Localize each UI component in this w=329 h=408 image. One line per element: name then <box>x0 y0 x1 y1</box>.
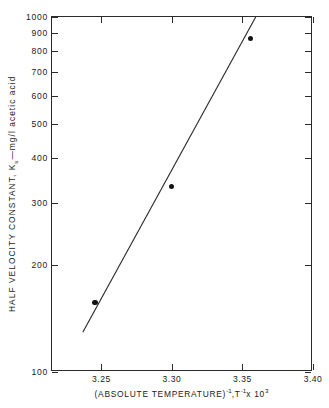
y-axis-title-post: —mg/l acetic acid <box>7 75 17 159</box>
y-axis-tick <box>305 372 311 373</box>
y-axis-tick-label: 800 <box>32 46 48 56</box>
x-axis-tick-label: 3.25 <box>92 374 111 384</box>
x-axis-title-exp3: 3 <box>265 387 268 394</box>
y-axis-tick-label: 500 <box>32 119 48 129</box>
fit-line <box>83 17 256 332</box>
y-axis-title-pre: HALF VELOCITY CONSTANT, K <box>7 163 17 311</box>
y-axis-title-text: HALF VELOCITY CONSTANT, Ks—mg/l acetic a… <box>7 75 19 311</box>
y-axis-tick-label: 1000 <box>26 12 48 22</box>
y-axis-tick-label: 300 <box>32 198 48 208</box>
x-axis-title-main: (ABSOLUTE TEMPERATURE) <box>95 389 227 399</box>
data-line-layer <box>52 17 311 370</box>
x-axis-tick <box>313 17 314 23</box>
data-point <box>248 36 253 41</box>
x-axis-tick <box>313 364 314 370</box>
chart-figure: HALF VELOCITY CONSTANT, Ks—mg/l acetic a… <box>0 0 329 408</box>
y-axis-tick-label: 900 <box>32 28 48 38</box>
y-axis-tick <box>52 372 58 373</box>
x-axis-tick-label: 3.30 <box>163 374 182 384</box>
x-axis-tick-label: 3.40 <box>304 374 323 384</box>
y-axis-tick-label: 200 <box>32 260 48 270</box>
y-axis-tick-label: 600 <box>32 91 48 101</box>
y-axis-tick-label: 700 <box>32 67 48 77</box>
x-axis-title-times: x 10 <box>246 389 265 399</box>
y-axis-tick-label: 400 <box>32 153 48 163</box>
plot-area: 10020030040050060070080090010003.253.303… <box>51 16 312 371</box>
x-axis-title-mid: ,T <box>232 389 241 399</box>
y-axis-tick-label: 100 <box>32 367 48 377</box>
data-point <box>169 184 174 189</box>
x-axis-tick-label: 3.35 <box>233 374 252 384</box>
x-axis-title: (ABSOLUTE TEMPERATURE)-1,T-1x 103 <box>51 387 312 399</box>
data-point <box>92 300 97 305</box>
y-axis-title: HALF VELOCITY CONSTANT, Ks—mg/l acetic a… <box>4 16 22 371</box>
